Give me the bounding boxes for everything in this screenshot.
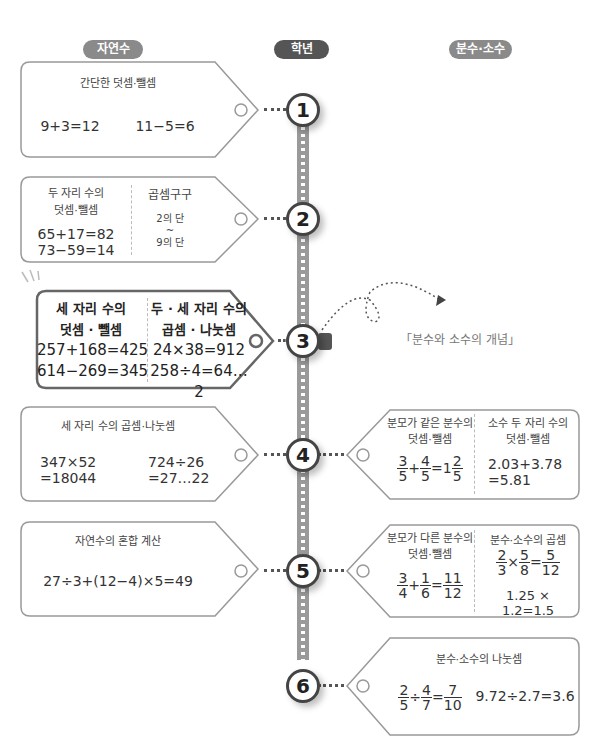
card-grade2-col2-title: 곱셈구구 [135, 185, 205, 202]
rcard-grade5-decimal-eq: 1.25 × 1.2=1.5 [478, 588, 578, 618]
grade-node-3: 3 [286, 324, 320, 358]
rcard-grade4-col2-title: 소수 두 자리 수의덧셈·뺄셈 [478, 416, 578, 448]
card-grade2-col1-eqs: 65+17=8273−59=14 [21, 226, 131, 258]
divider [147, 298, 148, 382]
rcard-grade4-decimal-eq: 2.03+3.78=5.81 [488, 456, 578, 488]
card-grade2-col1-title: 두 자리 수의덧셈·뺄셈 [21, 185, 131, 219]
card-grade2-col2-body: 2의 단~9의 단 [135, 213, 205, 249]
rcard-grade4-fraction-eq: 35+45=125 [380, 454, 480, 483]
card-grade1-eq2: 11−5=6 [125, 118, 205, 134]
rcard-grade5-mult-eq: 23×58=512 [478, 548, 578, 577]
rcard-grade6-title: 분수·소수의 나눗셈 [380, 650, 578, 666]
card-grade4-title: 세 자리 수의 곱셈·나눗셈 [21, 417, 215, 433]
grade-node-1: 1 [286, 93, 320, 127]
card-grade5-title: 자연수의 혼합 계산 [21, 532, 215, 548]
connector-3 [278, 339, 286, 342]
card-grade4-eq2: 724÷26=27…22 [148, 454, 218, 486]
rcard-grade5-col2-title: 분수·소수의 곱셈 [478, 531, 578, 547]
rcard-grade5-col1-title: 분모가 다른 분수의덧셈·뺄셈 [380, 531, 480, 563]
card-grade3-col1: 세 자리 수의덧셈 · 뺄셈 257+168=425 614−269=345 [37, 298, 145, 382]
divider [474, 414, 475, 494]
rcard-grade4-col1-title: 분모가 같은 분수의덧셈·뺄셈 [380, 416, 480, 448]
rcard-grade6-fraction-eq: 25÷47=710 [380, 683, 480, 712]
card-grade1-eq1: 9+3=12 [30, 118, 110, 134]
connector-5-right [318, 569, 344, 572]
divider [131, 185, 132, 255]
connector-6 [318, 684, 344, 687]
grade-node-5: 5 [286, 554, 320, 588]
card-grade4-eq1: 347×52=18044 [40, 454, 110, 486]
card-grade1-title: 간단한 덧셈·뺄셈 [21, 74, 215, 90]
rcard-grade6-decimal-eq: 9.72÷2.7=3.6 [475, 688, 575, 704]
grade-node-2: 2 [286, 202, 320, 236]
divider [474, 530, 475, 612]
connector-4-right [318, 453, 344, 456]
concept-annotation: 「분수와 소수의 개념」 [385, 330, 535, 347]
rcard-grade5-fraction-eq: 34+16=1112 [380, 571, 480, 600]
card-grade5-eq: 27÷3+(12−4)×5=49 [21, 573, 215, 589]
card-grade3-col2: 두 · 세 자리 수의곱셈 · 나눗셈 24×38=912 258÷4=64…2 [149, 298, 249, 403]
grade-node-4: 4 [286, 438, 320, 472]
grade-node-6: 6 [286, 669, 320, 703]
